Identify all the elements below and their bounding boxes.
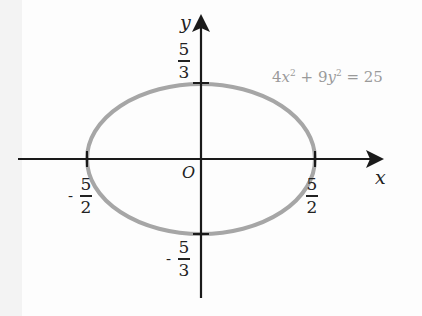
y-bottom-intercept-label: 5 3 xyxy=(178,239,190,279)
x-left-numerator: 5 xyxy=(81,176,92,193)
y-top-numerator: 5 xyxy=(179,41,190,58)
x-axis-label: x xyxy=(375,168,386,187)
axes-and-ellipse xyxy=(0,0,422,316)
x-left-sign: - xyxy=(68,187,73,205)
diagram-canvas: y x O 5 3 - 5 3 - 5 2 5 2 4x2 + 9y2 = 25 xyxy=(0,0,422,316)
x-left-denominator: 2 xyxy=(81,199,92,216)
y-bottom-numerator: 5 xyxy=(179,239,190,256)
ellipse-equation: 4x2 + 9y2 = 25 xyxy=(272,68,383,86)
eq-coef-1: 4 xyxy=(272,68,282,86)
y-axis-label: y xyxy=(180,13,191,32)
eq-rhs: 25 xyxy=(364,68,383,86)
eq-equals: = xyxy=(346,68,359,86)
x-right-numerator: 5 xyxy=(307,176,318,193)
eq-exp-2: 2 xyxy=(336,68,342,78)
eq-var-x: x xyxy=(282,68,290,86)
y-bottom-denominator: 3 xyxy=(179,262,190,279)
x-right-intercept-label: 5 2 xyxy=(306,176,318,216)
x-right-denominator: 2 xyxy=(307,199,318,216)
eq-plus: + xyxy=(301,68,314,86)
y-bottom-sign: - xyxy=(166,250,171,268)
x-left-intercept-label: 5 2 xyxy=(80,176,92,216)
origin-label: O xyxy=(182,165,195,181)
eq-var-y: y xyxy=(327,68,335,86)
eq-exp-1: 2 xyxy=(290,68,296,78)
y-top-intercept-label: 5 3 xyxy=(178,41,190,81)
eq-coef-2: 9 xyxy=(318,68,328,86)
y-top-denominator: 3 xyxy=(179,64,190,81)
